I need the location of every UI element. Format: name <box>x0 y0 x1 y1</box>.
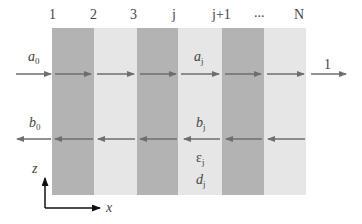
axis-label-x: x <box>106 201 112 215</box>
axis-label-z: z <box>32 162 37 176</box>
label-dj: dj <box>196 173 206 189</box>
label-bj: bj <box>196 116 206 132</box>
label-epsilon-j: εj <box>196 151 204 167</box>
label-b0: b0 <box>29 116 41 132</box>
label-transmitted: 1 <box>324 58 331 72</box>
axes <box>45 178 100 208</box>
arrows-layer <box>0 0 362 224</box>
label-aj: aj <box>194 50 204 66</box>
label-a0: a0 <box>28 50 40 66</box>
